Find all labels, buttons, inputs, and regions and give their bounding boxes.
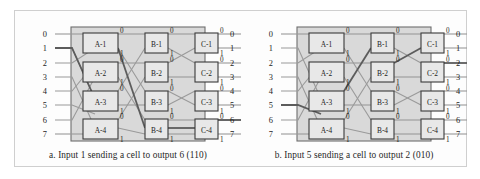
- switch-A-3[interactable]: A-3: [83, 91, 118, 111]
- output-terminal-group: 0 1 2 3 4 5 6 7: [230, 30, 235, 139]
- switch-B-1[interactable]: B-1: [145, 33, 168, 53]
- port-label-0: 0: [396, 85, 400, 93]
- output-terminal: 7: [456, 130, 460, 139]
- figure-panel-b: A-1 A-2 A-3 A-4 B-1 B-2: [241, 11, 467, 168]
- port-label-0: 0: [170, 85, 174, 93]
- input-terminal: 1: [43, 44, 47, 53]
- switch-C-3[interactable]: C-3: [195, 91, 218, 111]
- output-terminal: 1: [230, 44, 234, 53]
- switch-C-3[interactable]: C-3: [421, 91, 444, 111]
- input-terminal: 7: [269, 130, 273, 139]
- switch-C-2[interactable]: C-2: [195, 62, 218, 82]
- switch-label: C-1: [201, 40, 212, 49]
- output-terminal: 6: [230, 116, 234, 125]
- port-label-1: 1: [346, 136, 350, 144]
- port-label-0: 0: [396, 56, 400, 64]
- switch-label: A-4: [321, 126, 333, 135]
- switch-label: B-1: [151, 40, 162, 49]
- switch-label: B-2: [377, 69, 388, 78]
- port-label-1: 1: [120, 136, 124, 144]
- switch-C-1[interactable]: C-1: [195, 33, 218, 53]
- switch-label: C-4: [427, 126, 438, 135]
- switch-label: C-3: [201, 98, 212, 107]
- banyan-network-diagram-b: A-1 A-2 A-3 A-4 B-1 B-2: [241, 11, 467, 168]
- switch-label: B-3: [377, 98, 388, 107]
- switch-C-1[interactable]: C-1: [421, 33, 444, 53]
- input-terminal: 0: [269, 30, 273, 39]
- switch-label: B-3: [151, 98, 162, 107]
- output-terminal: 0: [456, 30, 460, 39]
- output-terminal: 7: [230, 130, 234, 139]
- switch-label: A-1: [321, 40, 333, 49]
- switch-label: A-3: [95, 98, 107, 107]
- switch-B-2[interactable]: B-2: [145, 62, 168, 82]
- banyan-network-diagram-a: A-1 A-2 A-3 A-4 B-1 B-2: [15, 11, 241, 168]
- switch-label: C-4: [201, 126, 212, 135]
- switch-label: A-2: [95, 69, 107, 78]
- switch-A-4[interactable]: A-4: [83, 119, 118, 139]
- input-terminal: 4: [269, 87, 274, 96]
- figure-frame: A-1 A-2 A-3 A-4 B-1 B-2: [14, 10, 467, 167]
- switch-B-4[interactable]: B-4: [145, 119, 168, 139]
- output-terminal: 2: [456, 59, 460, 68]
- input-terminal-group: 0 1 2 3 4 5 6 7: [269, 30, 274, 139]
- port-label-0: 0: [346, 113, 350, 121]
- switch-B-4[interactable]: B-4: [371, 119, 394, 139]
- output-terminal: 1: [456, 44, 460, 53]
- port-label-0: 0: [220, 56, 224, 64]
- output-terminal-group: 0 1 2 3 4 5 6 7: [456, 30, 461, 139]
- switch-C-2[interactable]: C-2: [421, 62, 444, 82]
- port-label-0: 0: [120, 85, 124, 93]
- switch-C-4[interactable]: C-4: [195, 119, 218, 139]
- switch-label: A-1: [95, 40, 107, 49]
- output-terminal: 6: [456, 116, 460, 125]
- switch-label: C-3: [427, 98, 438, 107]
- output-terminal: 5: [456, 101, 460, 110]
- switch-label: A-3: [321, 98, 333, 107]
- switch-B-2[interactable]: B-2: [371, 62, 394, 82]
- switch-A-2[interactable]: A-2: [83, 62, 118, 82]
- switch-A-1[interactable]: A-1: [83, 33, 118, 53]
- switch-B-1[interactable]: B-1: [371, 33, 394, 53]
- output-terminal: 0: [230, 30, 234, 39]
- output-terminal: 3: [230, 73, 234, 82]
- output-terminal: 2: [230, 59, 234, 68]
- input-terminal: 5: [43, 101, 47, 110]
- port-label-0: 0: [446, 113, 450, 121]
- output-terminal: 5: [230, 101, 234, 110]
- input-terminal: 7: [43, 130, 47, 139]
- input-terminal: 0: [43, 30, 47, 39]
- port-label-0: 0: [446, 27, 450, 35]
- figure-panel-a: A-1 A-2 A-3 A-4 B-1 B-2: [15, 11, 241, 168]
- switch-label: C-1: [427, 40, 438, 49]
- switch-label: B-4: [151, 126, 162, 135]
- port-label-0: 0: [396, 113, 400, 121]
- switch-B-3[interactable]: B-3: [371, 91, 394, 111]
- switch-label: A-4: [95, 126, 107, 135]
- switch-A-1[interactable]: A-1: [309, 33, 344, 53]
- port-label-0: 0: [346, 27, 350, 35]
- port-label-0: 0: [446, 85, 450, 93]
- switch-C-4[interactable]: C-4: [421, 119, 444, 139]
- switch-label: B-1: [377, 40, 388, 49]
- input-terminal: 3: [269, 73, 273, 82]
- switch-B-3[interactable]: B-3: [145, 91, 168, 111]
- port-label-0: 0: [446, 56, 450, 64]
- input-terminal: 6: [269, 116, 273, 125]
- port-label-1: 1: [396, 136, 400, 144]
- panel-a-caption: a. Input 1 sending a cell to output 6 (1…: [15, 150, 241, 160]
- input-terminal-group: 0 1 2 3 4 5 6 7: [43, 30, 48, 139]
- port-label-0: 0: [396, 27, 400, 35]
- output-terminal: 3: [456, 73, 460, 82]
- switch-label: B-4: [377, 126, 388, 135]
- port-label-0: 0: [120, 56, 124, 64]
- input-terminal: 5: [269, 101, 273, 110]
- switch-A-3[interactable]: A-3: [309, 91, 344, 111]
- switch-label: A-2: [321, 69, 333, 78]
- port-label-0: 0: [220, 27, 224, 35]
- switch-A-4[interactable]: A-4: [309, 119, 344, 139]
- panel-b-caption: b. Input 5 sending a cell to output 2 (0…: [241, 150, 467, 160]
- port-label-0: 0: [170, 27, 174, 35]
- port-label-0: 0: [346, 85, 350, 93]
- switch-A-2[interactable]: A-2: [309, 62, 344, 82]
